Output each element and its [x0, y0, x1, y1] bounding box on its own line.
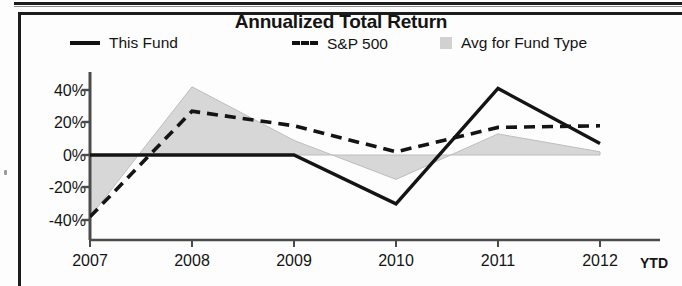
series-area-avg-fund-type	[90, 87, 600, 217]
chart-plot-area	[0, 0, 682, 286]
figure-container: Annualized Total Return This Fund S&P 50…	[0, 0, 682, 286]
